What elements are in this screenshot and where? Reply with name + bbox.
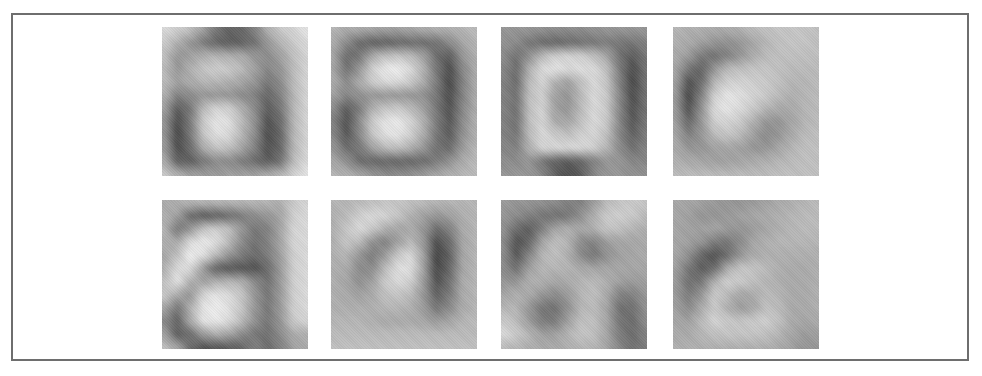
letter-sample-image — [162, 200, 308, 349]
letter-sample-image — [501, 200, 647, 349]
letter-sample-tile — [501, 27, 647, 176]
letter-sample-image — [162, 27, 308, 176]
letter-sample-tile — [162, 200, 308, 349]
letter-sample-tile — [162, 27, 308, 176]
letter-sample-tile — [673, 200, 819, 349]
letter-sample-tile — [673, 27, 819, 176]
letter-sample-image — [673, 200, 819, 349]
letter-sample-image — [673, 27, 819, 176]
letter-sample-image — [331, 27, 477, 176]
letter-sample-tile — [331, 27, 477, 176]
letter-sample-tile — [331, 200, 477, 349]
letter-sample-image — [501, 27, 647, 176]
letter-sample-image — [331, 200, 477, 349]
figure-frame — [11, 13, 969, 361]
letter-sample-tile — [501, 200, 647, 349]
